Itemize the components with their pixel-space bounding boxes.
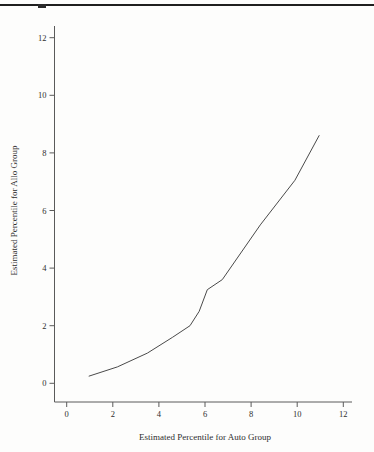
- page: 024681012024681012Estimated Percentile f…: [0, 0, 374, 452]
- plot-svg: 024681012024681012Estimated Percentile f…: [0, 0, 374, 452]
- x-axis-tick-label: 4: [157, 409, 162, 419]
- y-axis-title: Estimated Percentile for Allo Group: [9, 145, 19, 275]
- y-axis-tick-label: 10: [38, 90, 47, 100]
- x-axis-tick-label: 2: [111, 409, 115, 419]
- x-axis-tick-label: 0: [65, 409, 69, 419]
- x-axis-tick-label: 8: [249, 409, 253, 419]
- y-axis-tick-label: 12: [38, 33, 47, 43]
- x-axis-tick-label: 6: [203, 409, 207, 419]
- x-axis-tick-label: 12: [339, 409, 348, 419]
- y-axis-tick-label: 4: [42, 263, 47, 273]
- y-axis-tick-label: 6: [42, 206, 46, 216]
- axis-lines: [55, 26, 353, 402]
- y-axis-tick-label: 0: [42, 378, 46, 388]
- qq-plot: 024681012024681012Estimated Percentile f…: [0, 0, 374, 452]
- x-axis-title: Estimated Percentile for Auto Group: [139, 432, 271, 442]
- series-line: [89, 136, 319, 377]
- x-axis-tick-label: 10: [293, 409, 302, 419]
- y-axis-tick-label: 8: [42, 148, 46, 158]
- y-axis-tick-label: 2: [42, 321, 46, 331]
